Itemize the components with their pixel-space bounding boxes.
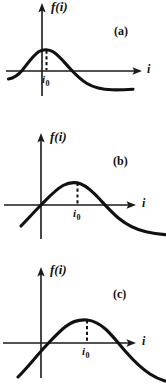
panel-a: f(i) i i0 (a) bbox=[0, 0, 166, 126]
panel-a-tag: (a) bbox=[114, 25, 128, 37]
panel-b-y-axis bbox=[37, 133, 44, 239]
panel-c-tag: (c) bbox=[113, 288, 126, 300]
panel-b-plot bbox=[0, 126, 166, 256]
figure-three-panel-fi-plots: f(i) i i0 (a) f(i) i i0 (b) bbox=[0, 0, 166, 391]
panel-a-y-axis-label: f(i) bbox=[51, 0, 68, 13]
panel-b-x-axis-label: i bbox=[142, 197, 145, 209]
panel-c-x-axis-label: i bbox=[142, 335, 145, 347]
panel-b: f(i) i i0 (b) bbox=[0, 126, 166, 256]
panel-b-peak-label: i0 bbox=[73, 208, 80, 219]
panel-c-y-axis-label: f(i) bbox=[50, 263, 67, 276]
panel-c-y-axis bbox=[37, 267, 44, 378]
panel-c-curve bbox=[18, 320, 165, 381]
panel-c-plot bbox=[0, 256, 166, 391]
panel-c: f(i) i i0 (c) bbox=[0, 256, 166, 391]
panel-b-y-axis-label: f(i) bbox=[50, 130, 67, 143]
panel-a-curve bbox=[9, 50, 134, 90]
panel-b-x-axis bbox=[4, 201, 136, 208]
panel-a-x-axis-label: i bbox=[147, 63, 150, 75]
panel-a-peak-label: i0 bbox=[42, 74, 49, 85]
panel-c-peak-label: i0 bbox=[82, 346, 89, 357]
panel-a-plot bbox=[0, 0, 166, 126]
panel-b-tag: (b) bbox=[113, 155, 128, 167]
